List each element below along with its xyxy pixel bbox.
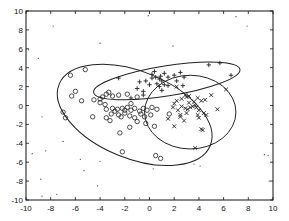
cluster-circles-points [61,67,172,160]
y-tick-label: 4 [19,64,24,73]
x-tick-label: 10 [269,204,278,213]
x-tick-label: -6 [72,204,80,213]
x-tick-label: -4 [97,204,105,213]
plot-frame [26,11,273,200]
x-tick-label: 2 [172,204,177,213]
x-axis: -10-8-6-4-20246810 [20,11,278,213]
data-points [28,15,270,199]
x-tick-label: -8 [47,204,55,213]
x-tick-label: -2 [121,204,129,213]
x-tick-label: 8 [246,204,251,213]
y-tick-label: -2 [16,120,24,129]
y-tick-label: 10 [14,7,23,16]
y-tick-label: 6 [19,45,24,54]
x-tick-label: 4 [197,204,202,213]
scatter-chart: -10-8-6-4-20246810 -10-8-6-4-20246810 [0,0,289,221]
x-tick-label: -10 [20,204,32,213]
y-tick-label: -8 [16,177,24,186]
y-tick-label: 8 [19,26,24,35]
x-tick-label: 0 [147,204,152,213]
y-tick-label: 0 [19,102,24,111]
y-tick-label: -6 [16,158,24,167]
cluster-plus-points [116,61,233,100]
noise-points [28,15,270,199]
y-tick-label: -10 [11,196,23,205]
ellipse-circles [43,44,227,186]
y-tick-label: -4 [16,139,24,148]
x-tick-label: 6 [221,204,226,213]
y-tick-label: 2 [19,83,24,92]
